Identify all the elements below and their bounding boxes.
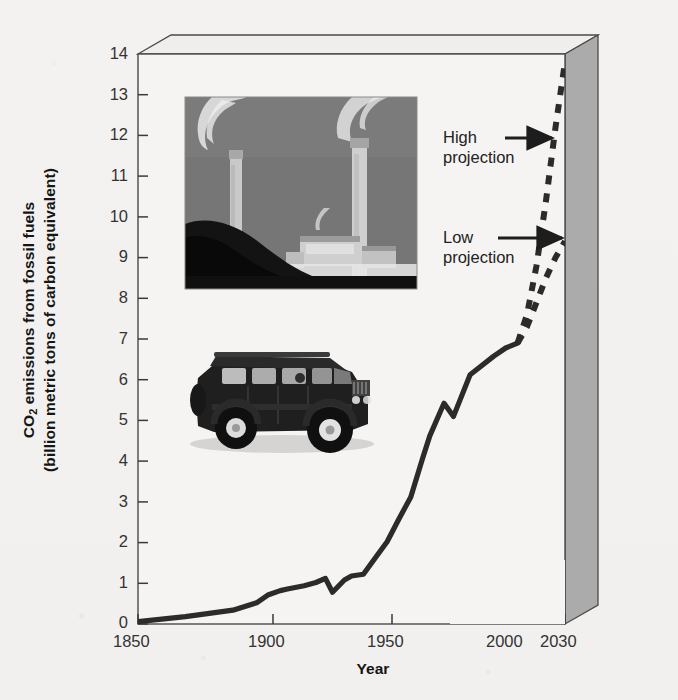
x-tick-label-2000: 2000 — [486, 632, 523, 651]
y-tick-label-13: 13 — [96, 85, 128, 104]
y-tick-label-7: 7 — [96, 329, 128, 348]
chart-figure — [0, 0, 678, 700]
plot-box-top-face — [138, 35, 598, 54]
x-tick-label-1850: 1850 — [113, 632, 150, 651]
high-projection-label-line1: High — [443, 127, 515, 147]
y-tick-label-4: 4 — [96, 451, 128, 470]
y-tick-label-6: 6 — [96, 370, 128, 389]
x-tick-label-1900: 1900 — [248, 632, 285, 651]
power-plant-photo — [185, 97, 417, 290]
low-projection-annotation: Low projection — [443, 227, 515, 267]
high-projection-label-line2: projection — [443, 147, 515, 167]
y-tick-label-9: 9 — [96, 247, 128, 266]
y-tick-label-3: 3 — [96, 492, 128, 511]
y-tick-label-12: 12 — [96, 125, 128, 144]
y-tick-label-1: 1 — [96, 573, 128, 592]
y-tick-label-2: 2 — [96, 532, 128, 551]
y-tick-label-14: 14 — [96, 44, 128, 63]
low-projection-label-line1: Low — [443, 227, 515, 247]
high-projection-annotation: High projection — [443, 127, 515, 167]
x-tick-label-2030: 2030 — [540, 632, 577, 651]
y-tick-label-0: 0 — [96, 613, 128, 632]
x-tick-label-1950: 1950 — [367, 632, 404, 651]
plot-box-right-wall — [565, 35, 598, 624]
y-tick-label-5: 5 — [96, 410, 128, 429]
low-projection-label-line2: projection — [443, 247, 515, 267]
y-tick-label-10: 10 — [96, 207, 128, 226]
y-tick-label-11: 11 — [96, 166, 128, 185]
y-tick-label-8: 8 — [96, 288, 128, 307]
